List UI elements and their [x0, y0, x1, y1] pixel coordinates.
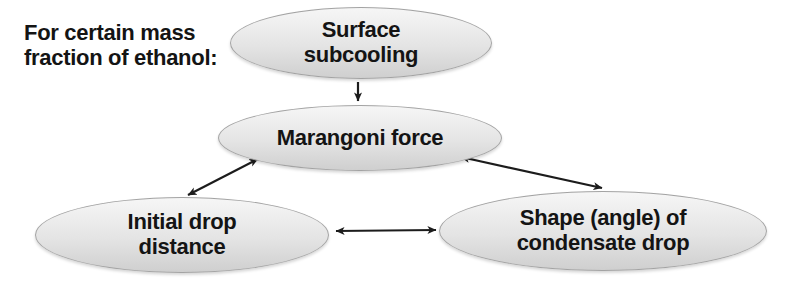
node-condensate-drop-shape: Shape (angle) of condensate drop	[439, 191, 767, 271]
node-label-marangoni-force: Marangoni force	[277, 126, 444, 151]
node-initial-drop-distance: Initial drop distance	[35, 197, 329, 273]
node-label-surface-subcooling: Surface subcooling	[291, 18, 431, 67]
edge-marangoni-initial	[188, 159, 258, 195]
node-marangoni-force: Marangoni force	[218, 105, 502, 171]
node-surface-subcooling: Surface subcooling	[230, 7, 492, 79]
edge-marangoni-shape	[461, 157, 602, 188]
node-label-initial-drop-distance: Initial drop distance	[110, 210, 255, 259]
diagram-canvas: For certain mass fraction of ethanol: Su…	[0, 0, 789, 283]
node-label-condensate-drop-shape: Shape (angle) of condensate drop	[508, 206, 698, 255]
edge-initial-shape	[336, 230, 436, 231]
